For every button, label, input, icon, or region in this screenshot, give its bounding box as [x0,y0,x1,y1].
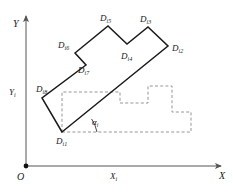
vertex-label-di7: Di7 [78,66,89,75]
vertex-label-di3: Di3 [140,15,151,24]
vertex-label-subscript: i3 [147,19,152,25]
vertex-label-base: D [56,136,63,146]
vertex-label-di8: Di8 [36,85,47,94]
origin-dot [24,164,29,169]
vertex-label-di6: Di6 [58,41,69,50]
vertex-label-subscript: i7 [85,70,90,76]
vertex-label-base: D [140,14,147,24]
vertex-label-base: D [78,65,85,75]
origin-label: O [17,172,24,182]
vertex-label-subscript: i2 [179,48,184,54]
diagram-svg [0,0,233,192]
vertex-label-di2: Di2 [172,44,183,53]
vertex-label-base: D [100,13,107,23]
local-x-axis-label: Xi [110,172,117,181]
vertex-label-base: D [36,84,43,94]
vertex-label-subscript: i4 [128,56,133,62]
figure-canvas: Y X O Xi Yi αi Di1Di2Di3Di4Di5Di6Di7Di8 [0,0,233,192]
vertex-label-subscript: i1 [63,141,68,147]
vertex-label-subscript: i8 [43,89,48,95]
vertex-label-base: D [172,43,179,53]
vertex-label-di5: Di5 [100,14,111,23]
vertex-label-base: D [58,40,65,50]
vertex-label-di4: Di4 [121,52,132,61]
vertex-label-di1: Di1 [56,137,67,146]
rotation-angle-label: αi [92,118,98,127]
vertex-label-subscript: i6 [65,45,70,51]
vertex-label-subscript: i5 [107,18,112,24]
vertex-label-base: D [121,51,128,61]
axis-label-x: X [219,171,225,181]
local-y-axis-label: Yi [9,88,16,97]
axis-label-y: Y [13,19,19,29]
dashed-reference-outline [62,86,191,132]
